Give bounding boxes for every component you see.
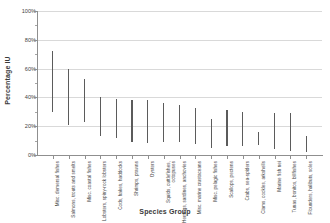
gridline-40 — [37, 97, 322, 98]
x-axis-title: Species Group — [0, 208, 330, 215]
x-tick-mark — [116, 156, 117, 159]
range-bar — [52, 51, 53, 112]
range-bar — [131, 100, 132, 142]
x-tick-mark — [306, 156, 307, 159]
x-tick-mark — [148, 156, 149, 159]
x-tick-mark — [243, 156, 244, 159]
gridline-100 — [37, 11, 322, 12]
range-bar — [211, 119, 212, 148]
gridline-80 — [37, 40, 322, 41]
range-bar — [116, 99, 117, 138]
x-tick-mark — [259, 156, 260, 159]
gridline-60 — [37, 69, 322, 70]
y-axis-spine — [37, 11, 38, 156]
y-axis-ticks: 100%80%60%40%20%0% — [0, 0, 36, 167]
range-bar — [226, 110, 227, 146]
plot-area — [37, 11, 322, 155]
x-tick-mark — [227, 156, 228, 159]
x-tick-mark — [195, 156, 196, 159]
x-tick-mark — [69, 156, 70, 159]
x-tick-mark — [53, 156, 54, 159]
range-bar — [274, 113, 275, 149]
range-bar — [195, 108, 196, 144]
range-bar — [100, 97, 101, 136]
x-tick-mark — [100, 156, 101, 159]
x-tick-mark — [290, 156, 291, 159]
x-tick-mark — [164, 156, 165, 159]
x-tick-mark — [180, 156, 181, 159]
x-tick-mark — [132, 156, 133, 159]
range-bar — [163, 103, 164, 142]
range-bar — [242, 112, 243, 147]
range-bar — [290, 113, 291, 150]
x-tick-mark — [275, 156, 276, 159]
range-bar — [179, 105, 180, 142]
range-bar — [147, 100, 148, 143]
x-tick-mark — [211, 156, 212, 159]
chart-figure: Percentage IU 100%80%60%40%20%0% Misc. d… — [0, 0, 330, 223]
x-tick-mark — [85, 156, 86, 159]
range-bar — [306, 136, 307, 152]
range-bar — [84, 79, 85, 122]
range-bar — [258, 132, 259, 145]
range-bar — [68, 69, 69, 125]
